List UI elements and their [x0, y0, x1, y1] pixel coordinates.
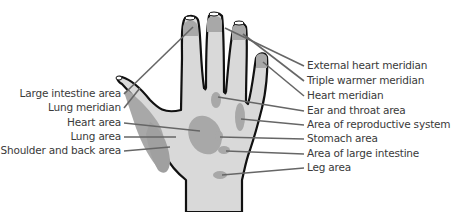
label-ear-throat-area: Ear and throat area	[307, 104, 406, 116]
label-large-intestine-area: Large intestine area	[20, 87, 121, 99]
finger-gap	[224, 92, 226, 94]
label-heart-area: Heart area	[67, 116, 121, 128]
thumb-nail	[116, 76, 122, 80]
ring-nail	[234, 21, 244, 25]
label-leg-area: Leg area	[307, 161, 351, 173]
finger-gap	[204, 88, 206, 90]
label-stomach-area: Stomach area	[307, 132, 378, 144]
label-reproductive-system-area: Area of reproductive system	[307, 118, 450, 130]
stomach-zone	[215, 131, 223, 141]
little-fingertip-zone	[256, 54, 267, 69]
label-external-heart-meridian: External heart meridian	[307, 59, 427, 71]
large-intestine-zone	[218, 146, 230, 154]
label-heart-meridian: Heart meridian	[307, 89, 383, 101]
label-area-large-intestine: Area of large intestine	[307, 147, 419, 159]
label-lung-area: Lung area	[70, 130, 121, 142]
reproductive-zone	[235, 103, 245, 131]
hand-diagram: Large intestine area Lung meridian Heart…	[0, 0, 456, 212]
label-lung-meridian: Lung meridian	[48, 101, 121, 113]
label-shoulder-back-area: Shoulder and back area	[1, 144, 122, 156]
label-triple-warmer-meridian: Triple warmer meridian	[307, 74, 424, 86]
middle-nail	[209, 12, 219, 16]
ear-throat-zone	[211, 92, 221, 108]
index-nail	[185, 16, 195, 20]
middle-fingertip-zone	[207, 16, 222, 32]
